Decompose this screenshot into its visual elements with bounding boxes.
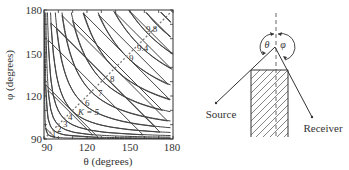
receiver-label: Receiver bbox=[303, 122, 342, 134]
contour-chart: 180 150 120 90 90 120 150 180 θ (degrees… bbox=[3, 4, 181, 168]
y-tick-150: 150 bbox=[26, 48, 43, 60]
theta-arrowhead-top bbox=[270, 32, 274, 36]
x-tick-120: 120 bbox=[79, 141, 96, 153]
x-tick-150: 150 bbox=[122, 141, 139, 153]
contour-label-9.8: 9.8 bbox=[146, 24, 158, 34]
contour-label-7: 7 bbox=[98, 88, 103, 98]
contour-label-9.4: 9.4 bbox=[137, 43, 149, 53]
geometry-diagram: θ φ Source Receiver bbox=[206, 13, 343, 170]
contour-label-8: 8 bbox=[110, 74, 115, 84]
source-ray bbox=[216, 47, 275, 103]
x-tick-90: 90 bbox=[42, 141, 54, 153]
y-tick-120: 120 bbox=[26, 90, 43, 102]
receiver-point bbox=[311, 116, 313, 118]
contour-label-2: 2 bbox=[57, 124, 62, 134]
contour-label-9: 9 bbox=[129, 53, 134, 63]
x-tick-180: 180 bbox=[164, 141, 181, 153]
receiver-ray bbox=[275, 47, 312, 117]
y-tick-180: 180 bbox=[26, 4, 43, 16]
contour-label-3: 3 bbox=[63, 119, 68, 129]
x-axis-label: θ (degrees) bbox=[84, 155, 133, 168]
phi-arrowhead-top bbox=[278, 32, 282, 36]
contour-label-k5: K = 5 bbox=[77, 107, 100, 117]
source-point bbox=[215, 102, 217, 104]
source-label: Source bbox=[206, 108, 237, 120]
y-axis-label: φ (degrees) bbox=[3, 50, 16, 100]
theta-label: θ bbox=[265, 39, 270, 50]
contour-label-1: 1 bbox=[52, 130, 56, 139]
phi-label: φ bbox=[280, 39, 286, 50]
contour-label-4: 4 bbox=[68, 112, 73, 122]
figure: 180 150 120 90 90 120 150 180 θ (degrees… bbox=[0, 0, 349, 170]
hatched-region bbox=[240, 30, 300, 170]
